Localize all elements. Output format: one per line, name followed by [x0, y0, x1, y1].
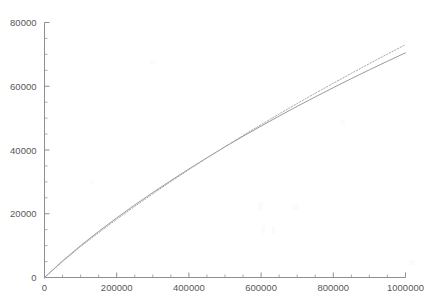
svg-text:800000: 800000	[317, 282, 349, 293]
y-axis-major-ticks	[45, 23, 50, 278]
svg-text:80000: 80000	[10, 17, 36, 28]
svg-text:60000: 60000	[10, 81, 36, 92]
series-solid-curve	[45, 53, 406, 278]
y-axis-tick-labels: 020000400006000080000	[10, 17, 36, 283]
data-series	[45, 45, 406, 278]
svg-text:200000: 200000	[101, 282, 133, 293]
svg-text:600000: 600000	[245, 282, 277, 293]
svg-text:0: 0	[42, 282, 47, 293]
svg-text:1000000: 1000000	[387, 282, 424, 293]
svg-text:0: 0	[31, 272, 36, 283]
svg-text:400000: 400000	[173, 282, 205, 293]
svg-text:40000: 40000	[10, 145, 36, 156]
line-chart: 020000400006000080000 020000040000060000…	[0, 0, 428, 304]
x-axis-tick-labels: 02000004000006000008000001000000	[42, 282, 424, 293]
svg-text:20000: 20000	[10, 208, 36, 219]
series-dotted-curve	[45, 45, 406, 278]
plot-area: 020000400006000080000 020000040000060000…	[0, 0, 428, 304]
